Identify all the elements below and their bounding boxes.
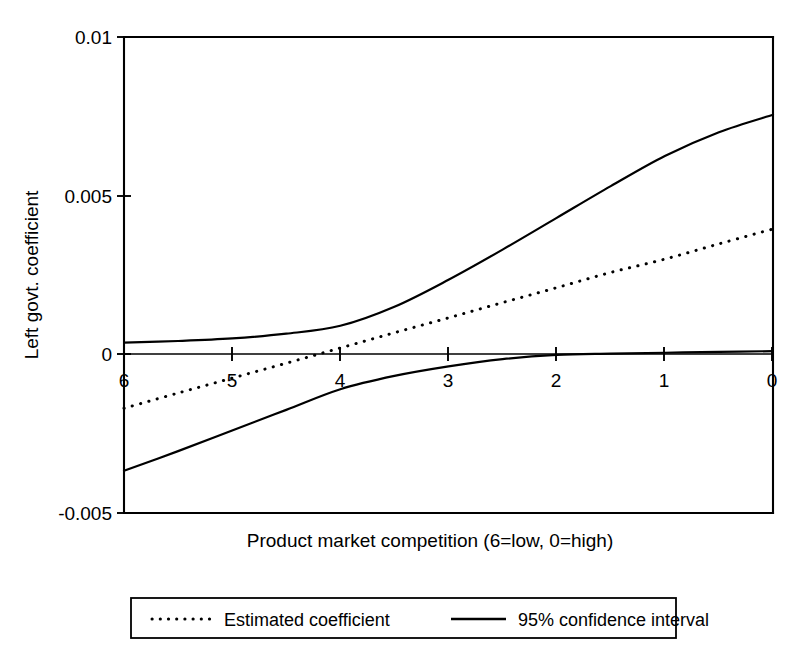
y-tick-label-2: 0 xyxy=(101,344,112,365)
y-tick-label-0: 0.01 xyxy=(75,27,112,48)
x-tick-label-3: 3 xyxy=(443,370,454,391)
x-axis-title: Product market competition (6=low, 0=hig… xyxy=(247,530,613,551)
y-axis-title: Left govt. coefficient xyxy=(21,190,42,359)
y-tick-label-1: 0.005 xyxy=(64,186,112,207)
x-tick-label-6: 0 xyxy=(767,370,778,391)
legend-label-confidence-interval: 95% confidence interval xyxy=(518,610,709,630)
legend-label-estimated-coefficient: Estimated coefficient xyxy=(224,610,390,630)
x-tick-label-5: 1 xyxy=(659,370,670,391)
x-tick-label-0: 6 xyxy=(119,370,130,391)
figure-background xyxy=(0,0,794,651)
chart-legend: Estimated coefficient 95% confidence int… xyxy=(131,598,709,638)
x-tick-label-4: 2 xyxy=(551,370,562,391)
y-tick-label-3: -0.005 xyxy=(58,503,112,524)
chart-figure: 0.01 0.005 0 -0.005 6 5 4 3 2 1 0 Left g… xyxy=(0,0,794,651)
x-tick-label-1: 5 xyxy=(227,370,238,391)
